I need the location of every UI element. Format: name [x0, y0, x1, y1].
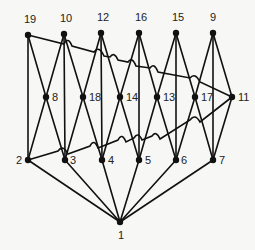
node-label: 1: [118, 229, 124, 241]
node-19: 19: [24, 13, 36, 38]
node-dot: [80, 94, 86, 100]
edge-10-18: [64, 34, 83, 97]
node-dot: [117, 94, 123, 100]
node-16: 16: [135, 11, 147, 36]
node-dot: [229, 94, 235, 100]
edge-7-1: [120, 160, 213, 222]
nodes-layer: 19101216159818141317112345671: [16, 11, 249, 241]
node-label: 5: [145, 154, 151, 166]
edge-18-3: [65, 97, 83, 160]
node-dot: [210, 157, 216, 163]
node-label: 6: [181, 154, 187, 166]
edge-14-4: [102, 97, 120, 160]
node-label: 12: [97, 11, 109, 23]
edge-17-6: [176, 97, 195, 160]
node-dot: [117, 219, 123, 225]
node-12: 12: [97, 11, 109, 36]
node-dot: [98, 30, 104, 36]
edge-17-7: [195, 97, 213, 160]
node-dot: [192, 94, 198, 100]
node-17: 17: [192, 91, 213, 103]
node-label: 15: [172, 11, 184, 23]
edge-5-1: [120, 160, 139, 222]
edge-9-11: [213, 33, 232, 97]
edge-13-5: [139, 97, 157, 160]
node-1: 1: [117, 219, 124, 241]
edge-14-5: [120, 97, 139, 160]
node-label: 13: [163, 91, 175, 103]
node-14: 14: [117, 91, 138, 103]
node-10: 10: [60, 12, 72, 37]
node-label: 7: [219, 154, 225, 166]
node-dot: [99, 157, 105, 163]
node-label: 14: [126, 91, 138, 103]
node-label: 4: [108, 154, 114, 166]
node-label: 10: [60, 12, 72, 24]
node-dot: [25, 32, 31, 38]
node-dot: [62, 157, 68, 163]
node-13: 13: [154, 91, 175, 103]
node-18: 18: [80, 91, 101, 103]
edge-15-17: [176, 33, 195, 97]
node-label: 8: [52, 91, 58, 103]
node-dot: [210, 30, 216, 36]
edge-12-14: [101, 33, 120, 97]
node-9: 9: [210, 11, 216, 36]
node-label: 2: [16, 154, 22, 166]
node-dot: [154, 94, 160, 100]
node-dot: [173, 157, 179, 163]
edge-15-13: [157, 33, 176, 97]
node-dot: [43, 94, 49, 100]
node-dot: [136, 157, 142, 163]
node-dot: [136, 30, 142, 36]
node-label: 18: [89, 91, 101, 103]
edge-12-18: [83, 33, 101, 97]
edge-10-3: [64, 34, 65, 160]
node-label: 17: [201, 91, 213, 103]
node-label: 16: [135, 11, 147, 23]
edge-8-3: [46, 97, 65, 160]
node-label: 11: [238, 91, 249, 103]
node-label: 19: [24, 13, 36, 25]
node-dot: [61, 31, 67, 37]
node-15: 15: [172, 11, 184, 36]
node-dot: [173, 30, 179, 36]
graph-diagram: 19101216159818141317112345671: [0, 0, 255, 250]
edges-layer: [28, 33, 232, 222]
edge-16-13: [139, 33, 157, 97]
node-label: 9: [210, 11, 216, 23]
node-dot: [25, 157, 31, 163]
edge-8-2: [28, 97, 46, 160]
edge-13-6: [157, 97, 176, 160]
edge-11-7: [213, 97, 232, 160]
node-label: 3: [70, 154, 76, 166]
edge-19-8: [28, 35, 46, 97]
edge-18-4: [83, 97, 102, 160]
node-11: 11: [229, 91, 250, 103]
